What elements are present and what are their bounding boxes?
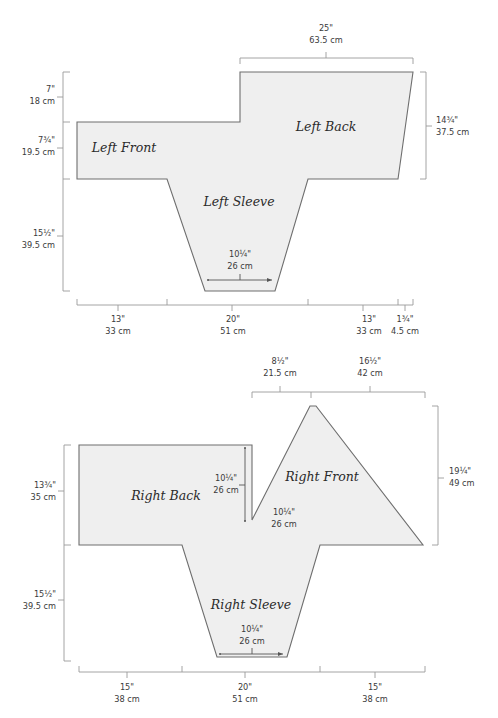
svg-text:7": 7" [46, 84, 55, 94]
svg-text:37.5 cm: 37.5 cm [436, 127, 469, 137]
svg-text:38 cm: 38 cm [362, 694, 388, 704]
left-front-label: Left Front [91, 140, 158, 155]
svg-text:33 cm: 33 cm [356, 326, 382, 336]
svg-text:7¾": 7¾" [38, 135, 55, 145]
svg-text:26 cm: 26 cm [271, 519, 297, 529]
svg-text:51 cm: 51 cm [232, 694, 258, 704]
svg-text:10¼": 10¼" [229, 249, 251, 259]
svg-text:42 cm: 42 cm [357, 368, 383, 378]
bottom-width-dimension: 15" 38 cm 20" 51 cm 15" 38 cm [79, 666, 425, 704]
svg-text:26 cm: 26 cm [213, 485, 239, 495]
svg-text:39.5 cm: 39.5 cm [22, 240, 55, 250]
left-back-label: Left Back [295, 119, 357, 134]
svg-text:10¼": 10¼" [241, 624, 263, 634]
left-side-diagram: Left Front Left Back Left Sleeve 25" 63.… [22, 23, 470, 336]
svg-text:19.5 cm: 19.5 cm [22, 147, 55, 157]
svg-text:20": 20" [226, 314, 240, 324]
svg-text:19¼": 19¼" [449, 466, 471, 476]
svg-text:38 cm: 38 cm [114, 694, 140, 704]
svg-text:15": 15" [368, 682, 382, 692]
svg-text:10¼": 10¼" [215, 473, 237, 483]
svg-text:13": 13" [362, 314, 376, 324]
svg-text:14¾": 14¾" [436, 115, 458, 125]
right-back-front-sleeve-shape [79, 406, 423, 657]
svg-text:15½": 15½" [33, 228, 55, 238]
svg-text:1¾": 1¾" [397, 314, 414, 324]
svg-text:21.5 cm: 21.5 cm [263, 368, 296, 378]
bottom-width-dimension: 13" 33 cm 20" 51 cm 13" 33 cm 1¾" 4.5 cm [77, 299, 419, 336]
svg-text:63.5 cm: 63.5 cm [309, 35, 342, 45]
top-width-dimension: 25" 63.5 cm [240, 23, 413, 64]
svg-text:25": 25" [319, 23, 333, 33]
svg-text:10¼": 10¼" [273, 507, 295, 517]
svg-text:51 cm: 51 cm [220, 326, 246, 336]
svg-text:15½": 15½" [34, 589, 56, 599]
svg-text:13¾": 13¾" [34, 480, 56, 490]
svg-text:35 cm: 35 cm [31, 492, 57, 502]
svg-text:15": 15" [120, 682, 134, 692]
svg-text:4.5 cm: 4.5 cm [391, 326, 419, 336]
svg-text:20": 20" [238, 682, 252, 692]
right-height-dimension: 14¾" 37.5 cm [420, 72, 469, 179]
svg-text:16½": 16½" [359, 356, 381, 366]
right-height-dimension: 19¼" 49 cm [432, 406, 475, 545]
svg-text:26 cm: 26 cm [227, 261, 253, 271]
left-height-dimension: 7" 18 cm 7¾" 19.5 cm 15½" 39.5 cm [22, 72, 70, 291]
svg-text:13": 13" [111, 314, 125, 324]
left-height-dimension: 13¾" 35 cm 15½" 39.5 cm [23, 445, 71, 661]
schematic-canvas: Left Front Left Back Left Sleeve 25" 63.… [0, 0, 498, 718]
svg-text:49 cm: 49 cm [449, 478, 475, 488]
svg-text:8½": 8½" [272, 356, 289, 366]
svg-text:39.5 cm: 39.5 cm [23, 601, 56, 611]
left-sleeve-label: Left Sleeve [202, 194, 274, 209]
svg-text:18 cm: 18 cm [30, 96, 56, 106]
right-front-label: Right Front [284, 469, 360, 484]
right-side-diagram: Right Back Right Front Right Sleeve 8½" … [23, 356, 475, 704]
right-back-label: Right Back [130, 488, 201, 503]
right-sleeve-label: Right Sleeve [210, 597, 291, 612]
svg-text:33 cm: 33 cm [105, 326, 131, 336]
svg-text:26 cm: 26 cm [239, 636, 265, 646]
top-width-dimension: 8½" 21.5 cm 16½" 42 cm [252, 356, 425, 398]
